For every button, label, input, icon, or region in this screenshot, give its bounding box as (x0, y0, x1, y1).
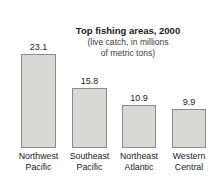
bar-value-northeast-atlantic: 10.9 (130, 93, 148, 103)
bar-chart: Top fishing areas, 2000 (live catch, in … (0, 0, 223, 180)
bar-value-northwest-pacific: 23.1 (30, 42, 48, 52)
bar-value-southeast-pacific: 15.8 (81, 76, 99, 86)
bar-group-northeast-atlantic: 10.9 Northeast Atlantic (122, 105, 156, 148)
bar-group-western-central: 9.9 Western Central (172, 109, 206, 148)
bar-label-southeast-pacific: Southeast Pacific (70, 151, 110, 172)
bar-southeast-pacific (72, 88, 107, 148)
bar-label-line-2: Atlantic (120, 162, 158, 173)
bar-group-southeast-pacific: 15.8 Southeast Pacific (72, 88, 107, 148)
plot-area: 23.1 Northwest Pacific 15.8 Southeast Pa… (0, 0, 223, 180)
bar-label-line-1: Northwest (19, 151, 59, 162)
bar-label-western-central: Western Central (173, 151, 206, 172)
bar-value-western-central: 9.9 (183, 97, 196, 107)
bar-label-line-1: Southeast (70, 151, 110, 162)
bar-group-northwest-pacific: 23.1 Northwest Pacific (21, 54, 56, 148)
bar-western-central (172, 109, 206, 148)
bar-label-line-2: Pacific (19, 162, 59, 173)
bar-northeast-atlantic (122, 105, 156, 148)
bar-label-line-2: Central (173, 162, 206, 173)
bar-label-northeast-atlantic: Northeast Atlantic (120, 151, 158, 172)
bar-label-northwest-pacific: Northwest Pacific (19, 151, 59, 172)
bar-label-line-1: Northeast (120, 151, 158, 162)
bar-label-line-1: Western (173, 151, 206, 162)
bar-label-line-2: Pacific (70, 162, 110, 173)
bar-northwest-pacific (21, 54, 56, 148)
